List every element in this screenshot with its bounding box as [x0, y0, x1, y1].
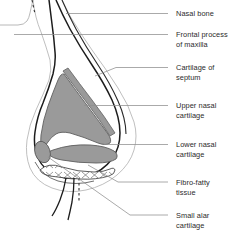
label-fibro-fatty-tissue: Fibro-fatty tissue — [176, 178, 210, 197]
forehead-profile-outline — [0, 0, 33, 25]
label-upper-nasal-cartilage: Upper nasal cartilage — [176, 101, 216, 120]
nasal-anatomy-figure: Nasal bone Frontal process of maxilla Ca… — [0, 0, 228, 231]
lower-nasal-cartilage-shape — [49, 145, 117, 163]
columella-outline-second — [68, 178, 74, 220]
label-lower-nasal-cartilage: Lower nasal cartilage — [176, 140, 216, 159]
leader-cartilage-of-septum — [95, 68, 168, 77]
leader-small-alar-cartilage — [48, 157, 168, 215]
label-cartilage-of-septum: Cartilage of septum — [176, 63, 214, 82]
label-nasal-bone: Nasal bone — [176, 9, 214, 19]
columella-outline — [52, 178, 66, 216]
label-small-alar-cartilage: Small alar cartilage — [176, 211, 209, 230]
label-frontal-process-of-maxilla: Frontal process of maxilla — [176, 30, 228, 49]
